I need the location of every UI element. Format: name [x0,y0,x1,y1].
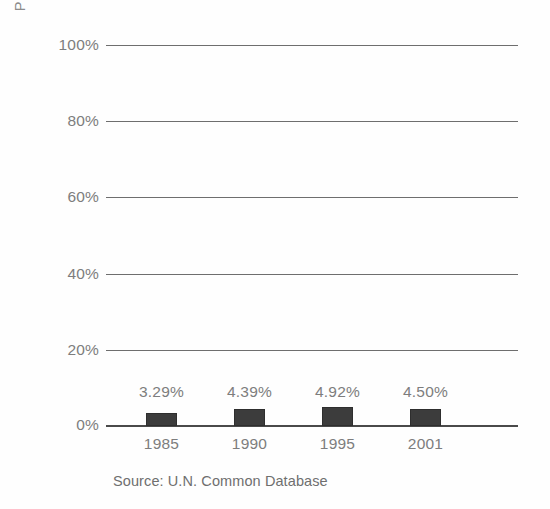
gridline-40: 40% [106,274,518,275]
ytick-label-60: 60% [67,188,99,206]
xtick-label-1990: 1990 [232,435,267,453]
bar-value-1990: 4.39% [227,383,272,401]
bar-value-2001: 4.50% [403,383,448,401]
gridline-20: 20% [106,350,518,351]
xtick-label-2001: 2001 [408,435,443,453]
ytick-label-0: 0% [76,416,99,434]
bar-2001[interactable] [410,409,441,426]
ytick-label-40: 40% [67,265,99,283]
bar-1995[interactable] [322,407,353,426]
plot-area: 100% 80% 60% 40% 20% 0% 3.29% 4.39% 4.92… [106,45,518,426]
bar-value-1985: 3.29% [139,383,184,401]
bar-chart-figure: PERCENTAGE OF GDP 100% 80% 60% 40% 20% 0… [0,0,550,509]
bar-1990[interactable] [234,409,265,426]
bar-1985[interactable] [146,413,177,426]
xtick-label-1995: 1995 [320,435,355,453]
xtick-label-1985: 1985 [144,435,179,453]
ytick-label-20: 20% [67,341,99,359]
ytick-label-80: 80% [67,112,99,130]
gridline-100: 100% [106,45,518,46]
y-axis-title: PERCENTAGE OF GDP [0,0,40,85]
source-note: Source: U.N. Common Database [113,473,328,489]
gridline-80: 80% [106,121,518,122]
ytick-label-100: 100% [59,36,99,54]
gridline-60: 60% [106,197,518,198]
bar-value-1995: 4.92% [315,383,360,401]
